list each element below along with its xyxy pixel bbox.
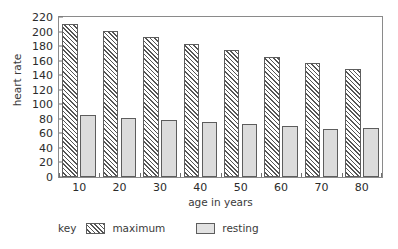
x-axis-tick-label-20: 20 [113,182,127,193]
bar-resting-10 [80,115,96,177]
bar-resting-60 [282,126,298,177]
x-axis-tick-label-10: 10 [72,182,86,193]
y-axis-tick-label: 0 [46,172,59,183]
y-axis-tick-label: 160 [32,55,59,66]
chart-legend: key maximum resting [58,222,259,234]
x-axis-tick-mark [180,173,181,177]
legend-entry-maximum: maximum [86,222,165,234]
x-axis-tick-label-40: 40 [193,182,207,193]
bar-maximum-30 [143,37,159,177]
x-axis-title: age in years [58,196,383,208]
x-axis-tick-mark [59,173,60,177]
x-axis-tick-mark [221,173,222,177]
plot-frame: 0204060801001201401601802002201020304050… [58,16,383,178]
y-axis-tick-label: 120 [32,84,59,95]
x-axis-tick-mark [342,173,343,177]
bar-maximum-60 [264,57,280,177]
x-axis-tick-label-70: 70 [314,182,328,193]
plot-area: 0204060801001201401601802002201020304050… [59,17,382,177]
x-axis-tick-mark [99,173,100,177]
legend-key-label: key [58,222,76,234]
x-axis-tick-label-30: 30 [153,182,167,193]
bar-maximum-80 [345,69,361,177]
y-axis-tick-label: 180 [32,41,59,52]
bar-resting-70 [323,129,339,177]
bar-maximum-50 [224,50,240,177]
hatched-swatch-icon [86,223,105,234]
x-axis-tick-label-50: 50 [234,182,248,193]
y-axis-tick-label: 140 [32,70,59,81]
y-axis-tick-label: 20 [39,157,59,168]
bar-resting-80 [363,128,379,177]
y-axis-tick-mark [59,17,63,18]
y-axis-tick-label: 60 [39,128,59,139]
bar-maximum-10 [62,24,78,177]
x-axis-tick-mark [381,173,382,177]
x-axis-tick-mark [301,173,302,177]
x-axis-tick-mark [140,173,141,177]
y-axis-tick-label: 80 [39,113,59,124]
y-axis-title: heart rate [11,35,23,125]
y-axis-tick-label: 220 [32,12,59,23]
bar-maximum-20 [103,31,119,177]
legend-label-maximum: maximum [112,222,165,234]
legend-entry-resting: resting [196,222,258,234]
bar-maximum-40 [184,44,200,177]
solid-swatch-icon [196,223,215,234]
bar-resting-20 [121,118,137,177]
bar-resting-40 [202,122,218,177]
y-axis-tick-label: 100 [32,99,59,110]
y-axis-tick-label: 40 [39,142,59,153]
x-axis-tick-mark [261,173,262,177]
heart-rate-bar-chart: heart rate 02040608010012014016018020022… [0,0,398,249]
bar-resting-30 [161,120,177,177]
x-axis-tick-label-80: 80 [355,182,369,193]
bar-maximum-70 [305,63,321,177]
x-axis-tick-label-60: 60 [274,182,288,193]
bar-resting-50 [242,124,258,177]
y-axis-tick-label: 200 [32,26,59,37]
legend-label-resting: resting [222,222,258,234]
